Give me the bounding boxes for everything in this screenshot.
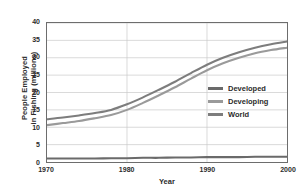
- legend-item-developed: Developed: [208, 83, 286, 94]
- y-tick-15: 15: [24, 106, 40, 113]
- y-tick-30: 30: [24, 53, 40, 60]
- y-tick-5: 5: [24, 141, 40, 148]
- y-tick-25: 25: [24, 71, 40, 78]
- y-tick-20: 20: [24, 89, 40, 96]
- y-tick-40: 40: [24, 18, 40, 25]
- x-axis-title: Year: [46, 177, 288, 186]
- fishing-employment-line-chart: People Employed in Fishing (millions) 05…: [0, 0, 301, 190]
- legend-label-developing: Developing: [228, 97, 268, 106]
- y-tick-35: 35: [24, 36, 40, 43]
- legend-item-developing: Developing: [208, 96, 286, 107]
- legend-swatch-developed: [208, 87, 223, 90]
- series-line-developed: [47, 157, 287, 159]
- x-tick-1970: 1970: [33, 166, 59, 173]
- x-tick-2000: 2000: [275, 166, 301, 173]
- y-tick-0: 0: [24, 159, 40, 166]
- legend-swatch-developing: [208, 100, 223, 103]
- y-tick-10: 10: [24, 124, 40, 131]
- x-tick-1990: 1990: [194, 166, 220, 173]
- legend-label-world: World: [228, 110, 249, 119]
- x-tick-1980: 1980: [114, 166, 140, 173]
- legend-swatch-world: [208, 113, 223, 116]
- chart-legend: DevelopedDevelopingWorld: [208, 83, 286, 122]
- legend-item-world: World: [208, 109, 286, 120]
- legend-label-developed: Developed: [228, 84, 266, 93]
